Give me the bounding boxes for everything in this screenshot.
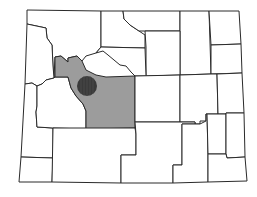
- county-goshen[interactable]: [226, 113, 245, 158]
- county-weston[interactable]: [211, 44, 242, 74]
- county-uinta[interactable]: [19, 157, 53, 182]
- state-map: [0, 0, 257, 197]
- county-johnson[interactable]: [145, 31, 180, 76]
- county-laramie[interactable]: [208, 154, 247, 182]
- county-crook[interactable]: [209, 11, 241, 45]
- county-natrona[interactable]: [135, 75, 180, 122]
- county-washakie[interactable]: [96, 47, 146, 76]
- county-niobrara[interactable]: [217, 73, 244, 114]
- county-platte[interactable]: [207, 114, 226, 154]
- county-map-svg: [0, 0, 257, 197]
- county-campbell[interactable]: [180, 11, 211, 75]
